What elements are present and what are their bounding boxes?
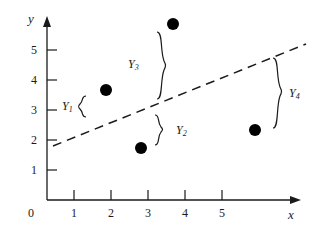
residual-label-y1: Y1 bbox=[62, 100, 73, 112]
residual-y2-subscript: 2 bbox=[183, 129, 187, 138]
plot-canvas bbox=[0, 0, 318, 235]
residual-y3-text: Y bbox=[128, 57, 135, 71]
residual-label-y3: Y3 bbox=[128, 58, 139, 70]
y-tick-label-3: 3 bbox=[27, 104, 41, 116]
x-tick-label-2: 2 bbox=[104, 207, 118, 219]
origin-tick-label: 0 bbox=[24, 207, 38, 219]
data-point-p1 bbox=[100, 84, 112, 96]
brace-y3 bbox=[157, 32, 166, 99]
residual-label-y4: Y4 bbox=[289, 87, 300, 99]
y-axis-arrowhead bbox=[43, 16, 51, 27]
x-axis-label: x bbox=[288, 208, 294, 221]
x-tick-label-1: 1 bbox=[67, 207, 81, 219]
y-tick-label-4: 4 bbox=[27, 74, 41, 86]
data-point-p4 bbox=[249, 124, 261, 136]
residual-y4-text: Y bbox=[289, 86, 296, 100]
x-axis-arrowhead bbox=[290, 196, 301, 204]
residual-label-y2: Y2 bbox=[176, 124, 187, 136]
brace-y1 bbox=[79, 96, 87, 117]
y-tick-label-5: 5 bbox=[27, 44, 41, 56]
y-tick-label-1: 1 bbox=[27, 164, 41, 176]
residual-y2-text: Y bbox=[176, 123, 183, 137]
x-tick-label-3: 3 bbox=[141, 207, 155, 219]
x-tick-label-4: 4 bbox=[178, 207, 192, 219]
residual-y1-subscript: 1 bbox=[69, 105, 73, 114]
residual-y4-subscript: 4 bbox=[296, 92, 300, 101]
residual-y3-subscript: 3 bbox=[135, 63, 139, 72]
residual-y1-text: Y bbox=[62, 99, 69, 113]
x-tick-label-5: 5 bbox=[215, 207, 229, 219]
brace-y2 bbox=[155, 115, 163, 145]
y-tick-label-2: 2 bbox=[27, 134, 41, 146]
data-point-p3 bbox=[167, 18, 179, 30]
scatter-plot-figure: y x 0 5 4 3 2 1 1 2 3 4 5 Y1 Y2 Y3 Y4 bbox=[0, 0, 318, 235]
brace-y4 bbox=[273, 58, 282, 128]
y-axis-label: y bbox=[28, 12, 34, 25]
data-point-p2 bbox=[135, 142, 147, 154]
